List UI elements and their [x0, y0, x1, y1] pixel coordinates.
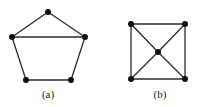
graph-vertex — [23, 77, 29, 83]
graph-edge — [158, 52, 185, 79]
graph-edge — [158, 24, 185, 52]
figure-container: (a) (b) — [0, 0, 206, 107]
graph-vertex — [128, 76, 134, 82]
graph-vertex — [9, 34, 15, 40]
graph-vertex — [128, 21, 134, 27]
panel-caption-a: (a) — [28, 88, 68, 100]
graph-vertex — [182, 21, 188, 27]
graph-vertex — [155, 49, 161, 55]
graph-edge — [12, 12, 48, 37]
graph-edge — [71, 37, 85, 80]
graph-vertex — [182, 76, 188, 82]
panel-caption-b: (b) — [140, 88, 180, 100]
graph-edge — [12, 37, 26, 80]
edges-layer — [12, 12, 185, 80]
graph-edge — [131, 24, 158, 52]
graph-edge — [131, 52, 158, 79]
graph-edge — [48, 12, 85, 37]
graph-vertex — [82, 34, 88, 40]
graph-vertex — [45, 9, 51, 15]
graph-vertex — [68, 77, 74, 83]
